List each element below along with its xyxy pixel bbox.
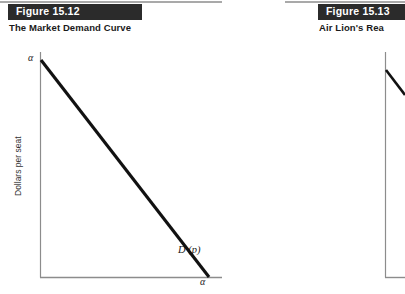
figure-panel-15-12: Figure 15.12 The Market Demand Curve Dol… [0, 0, 222, 294]
reaction-function-line [386, 70, 405, 95]
demand-curve-line [41, 60, 209, 277]
reaction-function-plot [285, 0, 405, 294]
figure-panel-15-13: Figure 15.13 Air Lion's Rea Beta's outpu… [285, 0, 405, 294]
demand-curve-plot [0, 0, 222, 294]
